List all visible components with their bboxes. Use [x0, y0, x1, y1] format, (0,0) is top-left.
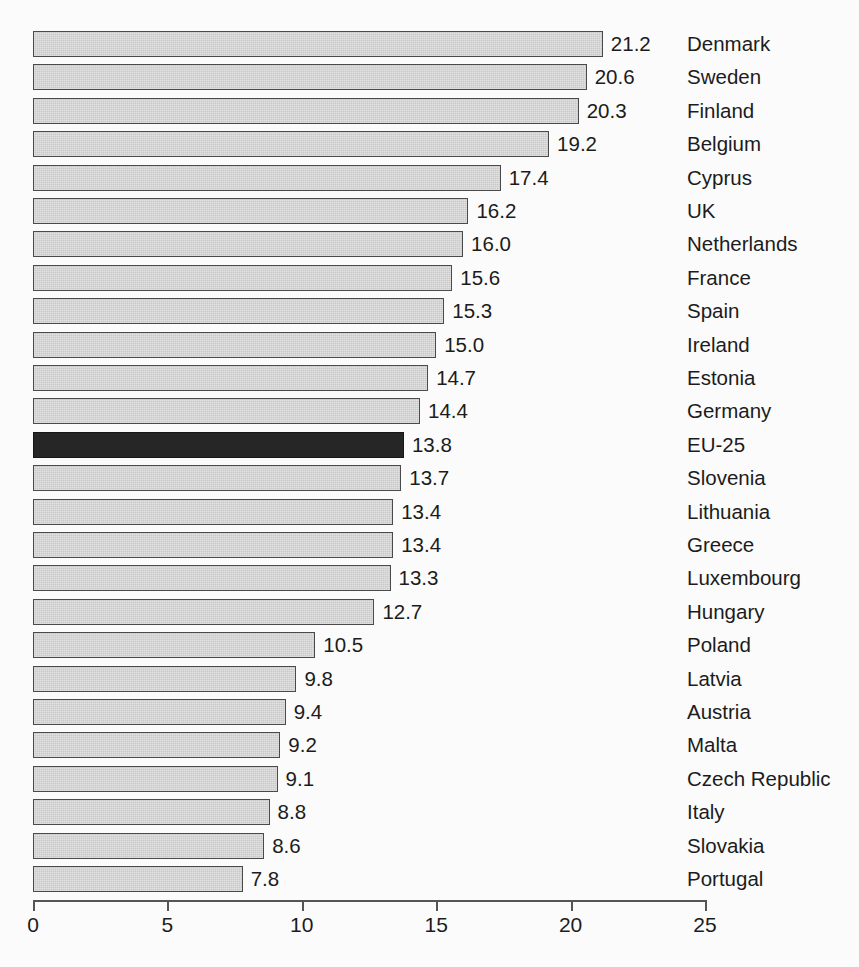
bar[interactable] [33, 265, 452, 291]
bar-value-label: 9.2 [288, 735, 317, 756]
x-axis-tick [705, 900, 707, 911]
bar-value-label: 20.3 [587, 101, 627, 122]
bar-row: 9.4Austria [0, 699, 859, 725]
bar-value-label: 14.4 [428, 401, 468, 422]
bar-value-label: 14.7 [436, 368, 476, 389]
bar[interactable] [33, 532, 393, 558]
bar-value-label: 13.8 [412, 435, 452, 456]
bar-value-label: 15.6 [460, 268, 500, 289]
category-label: Hungary [687, 602, 765, 623]
bar-value-label: 16.0 [471, 234, 511, 255]
x-axis-tick-label: 5 [162, 914, 174, 935]
x-axis-tick [33, 900, 35, 911]
bar[interactable] [33, 98, 579, 124]
x-axis-tick-label: 15 [425, 914, 448, 935]
bar[interactable] [33, 732, 280, 758]
bar-value-label: 15.3 [452, 301, 492, 322]
bar-value-label: 21.2 [611, 34, 651, 55]
bar[interactable] [33, 198, 468, 224]
x-axis-tick-label: 20 [559, 914, 582, 935]
category-label: Czech Republic [687, 769, 831, 790]
bar-row: 14.4Germany [0, 398, 859, 424]
bar-row: 17.4Cyprus [0, 165, 859, 191]
bar-value-label: 9.8 [304, 668, 333, 689]
bar-value-label: 8.6 [272, 835, 301, 856]
bar-row: 15.6France [0, 265, 859, 291]
bar-row: 20.6Sweden [0, 64, 859, 90]
bar-row: 12.7Hungary [0, 599, 859, 625]
x-axis-tick [302, 900, 304, 911]
bar[interactable] [33, 499, 393, 525]
bar[interactable] [33, 699, 286, 725]
bar[interactable] [33, 666, 296, 692]
bar[interactable] [33, 866, 243, 892]
bar[interactable] [33, 332, 436, 358]
bar-row: 21.2Denmark [0, 31, 859, 57]
bar[interactable] [33, 632, 315, 658]
bar-value-label: 19.2 [557, 134, 597, 155]
category-label: Ireland [687, 334, 750, 355]
x-axis-tick-label: 10 [290, 914, 313, 935]
bar-value-label: 9.4 [294, 702, 323, 723]
bar-row: 15.3Spain [0, 298, 859, 324]
category-label: Spain [687, 301, 739, 322]
bar-value-label: 16.2 [476, 201, 516, 222]
category-label: Slovenia [687, 468, 766, 489]
bar-row: 9.1Czech Republic [0, 766, 859, 792]
category-label: Greece [687, 535, 754, 556]
plot-area: 21.2Denmark20.6Sweden20.3Finland19.2Belg… [0, 0, 859, 967]
bar[interactable] [33, 31, 603, 57]
bar-row: 13.8EU-25 [0, 432, 859, 458]
bar-row: 15.0Ireland [0, 332, 859, 358]
x-axis-tick [436, 900, 438, 911]
bar[interactable] [33, 131, 549, 157]
bar-row: 13.4Greece [0, 532, 859, 558]
category-label: Austria [687, 702, 751, 723]
category-label: EU-25 [687, 435, 745, 456]
bar-row: 10.5Poland [0, 632, 859, 658]
bar-row: 13.7Slovenia [0, 465, 859, 491]
category-label: Finland [687, 101, 754, 122]
bar[interactable] [33, 398, 420, 424]
bar[interactable] [33, 365, 428, 391]
bar-row: 9.8Latvia [0, 666, 859, 692]
bar-value-label: 15.0 [444, 334, 484, 355]
bar[interactable] [33, 766, 278, 792]
category-label: Cyprus [687, 167, 752, 188]
x-axis-tick-label: 0 [27, 914, 39, 935]
bar-value-label: 13.4 [401, 535, 441, 556]
bar-value-label: 10.5 [323, 635, 363, 656]
bar[interactable] [33, 465, 401, 491]
bar-row: 9.2Malta [0, 732, 859, 758]
bar-row: 8.6Slovakia [0, 833, 859, 859]
x-axis-tick [571, 900, 573, 911]
bar[interactable] [33, 833, 264, 859]
bar-value-label: 13.7 [409, 468, 449, 489]
bar-row: 16.2UK [0, 198, 859, 224]
bar[interactable] [33, 231, 463, 257]
category-label: Poland [687, 635, 751, 656]
bar-value-label: 7.8 [251, 869, 280, 890]
bar[interactable] [33, 599, 374, 625]
bar[interactable] [33, 799, 270, 825]
bar-value-label: 9.1 [286, 769, 315, 790]
x-axis-tick [167, 900, 169, 911]
category-label: Estonia [687, 368, 755, 389]
x-axis-tick-label: 25 [693, 914, 716, 935]
bar-row: 20.3Finland [0, 98, 859, 124]
category-label: Malta [687, 735, 737, 756]
bar-row: 19.2Belgium [0, 131, 859, 157]
bar[interactable] [33, 165, 501, 191]
bar[interactable] [33, 64, 587, 90]
category-label: Sweden [687, 67, 761, 88]
bar-row: 7.8Portugal [0, 866, 859, 892]
category-label: Latvia [687, 668, 742, 689]
bar[interactable] [33, 298, 444, 324]
bar-row: 8.8Italy [0, 799, 859, 825]
bar-value-label: 20.6 [595, 67, 635, 88]
bar[interactable] [33, 432, 404, 458]
category-label: Slovakia [687, 835, 765, 856]
bar[interactable] [33, 565, 391, 591]
bar-row: 16.0Netherlands [0, 231, 859, 257]
bar-row: 13.3Luxembourg [0, 565, 859, 591]
